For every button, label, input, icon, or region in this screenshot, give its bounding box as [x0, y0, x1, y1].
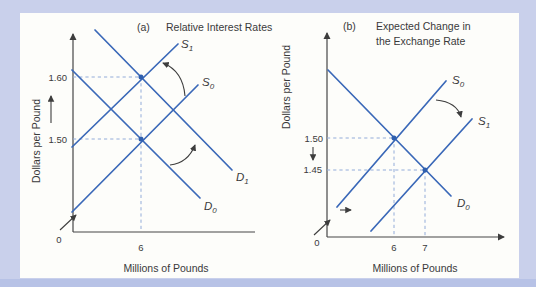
tick-150-b: 1.50	[305, 133, 324, 144]
tick-145-b: 1.45	[304, 164, 323, 175]
x-axis-label-b: Millions of Pounds	[372, 262, 457, 274]
y-axis-label-b: Dollars per Pound	[280, 45, 292, 129]
panel-b-title-line2: the Exchange Rate	[376, 35, 465, 47]
tick-150-a: 1.50	[49, 134, 68, 145]
origin-label-b: 0	[314, 237, 319, 248]
equilibrium-dot-160	[139, 75, 144, 80]
bottom-band	[0, 279, 536, 287]
figure-background	[20, 13, 519, 278]
tick-6-b: 6	[391, 242, 396, 253]
exchange-rate-diagram: (a) Relative Interest Rates Dollars per …	[0, 0, 536, 287]
y-axis-label-a: Dollars per Pound	[30, 99, 42, 183]
panel-a-title: Relative Interest Rates	[166, 21, 272, 33]
tick-7-b: 7	[422, 242, 427, 253]
x-axis-label-a: Millions of Pounds	[123, 262, 208, 274]
panel-a-tag: (a)	[137, 21, 150, 33]
equilibrium-dot-150-b	[392, 136, 397, 141]
panel-b-title-line1: Expected Change in	[376, 20, 471, 32]
panel-b-tag: (b)	[343, 20, 356, 32]
tick-160: 1.60	[49, 72, 68, 83]
tick-6-a: 6	[138, 242, 143, 253]
textbook-figure: (a) Relative Interest Rates Dollars per …	[0, 0, 536, 287]
equilibrium-dot-145-b	[423, 168, 428, 173]
origin-label-a: 0	[56, 234, 61, 245]
equilibrium-dot-150	[139, 137, 144, 142]
